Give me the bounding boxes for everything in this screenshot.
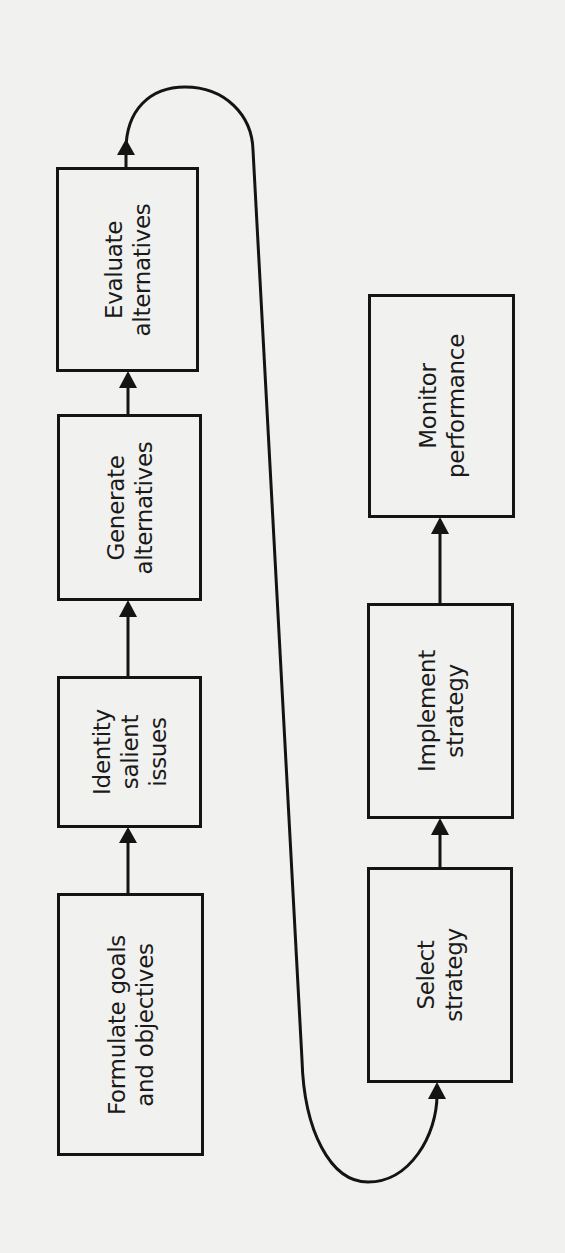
box-select-strategy: Select strategy: [367, 867, 513, 1083]
arrow-generate-to-evaluate: [119, 371, 137, 414]
label-line: and objectives: [131, 934, 159, 1114]
box-label: Evaluate alternatives: [100, 203, 156, 336]
arrowhead-icon: [119, 371, 137, 388]
box-identify-salient-issues: Identity salient issues: [57, 676, 202, 828]
arrowhead-icon: [431, 517, 449, 534]
box-label: Select strategy: [412, 928, 468, 1022]
label-line: Evaluate: [100, 203, 128, 336]
arrowhead-icon: [119, 827, 137, 843]
label-line: Monitor: [414, 334, 442, 478]
arrow-implement-to-monitor: [431, 517, 449, 603]
label-line: Implement: [413, 650, 441, 772]
label-line: Select: [412, 928, 440, 1022]
arrowhead-icon: [117, 139, 135, 155]
box-formulate-goals: Formulate goals and objectives: [57, 893, 204, 1156]
label-line: Formulate goals: [103, 934, 131, 1114]
arrow-formulate-to-identify: [119, 827, 137, 893]
arrowhead-icon: [431, 818, 449, 835]
label-line: Generate: [102, 441, 130, 574]
page-background: sources should be deployed within organi…: [0, 0, 565, 1253]
label-line: alternatives: [128, 203, 156, 336]
box-label: Implement strategy: [413, 650, 469, 772]
box-label: Generate alternatives: [102, 441, 158, 574]
label-line: issues: [144, 709, 172, 795]
arrowhead-icon: [428, 1082, 446, 1099]
label-line: performance: [442, 334, 470, 478]
box-implement-strategy: Implement strategy: [367, 603, 514, 819]
label-line: salient: [116, 709, 144, 795]
label-line: strategy: [441, 650, 469, 772]
arrow-select-to-implement: [431, 818, 449, 867]
box-label: Formulate goals and objectives: [103, 934, 159, 1114]
label-line: strategy: [440, 928, 468, 1022]
arrow-identify-to-generate: [119, 600, 137, 676]
label-line: Identity: [88, 709, 116, 795]
box-monitor-performance: Monitor performance: [368, 294, 515, 518]
box-label: Identity salient issues: [88, 709, 172, 795]
box-generate-alternatives: Generate alternatives: [57, 414, 202, 601]
label-line: alternatives: [130, 441, 158, 574]
box-label: Monitor performance: [414, 334, 470, 478]
box-evaluate-alternatives: Evaluate alternatives: [56, 167, 199, 372]
arrowhead-icon: [119, 600, 137, 617]
